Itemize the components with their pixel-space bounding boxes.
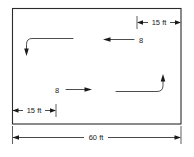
arrowhead-left-icon: [13, 135, 20, 140]
diagram-svg: 15 ft 8 8: [0, 0, 194, 157]
dimension-label-top-right: 15 ft: [152, 18, 168, 27]
dimension-overall-width: 60 ft: [13, 126, 182, 144]
arrowhead-right-icon: [175, 135, 182, 140]
dimension-label-overall: 60 ft: [89, 133, 105, 142]
dimension-label-bottom-left: 15 ft: [27, 106, 43, 115]
diagram-canvas: 15 ft 8 8: [0, 0, 194, 157]
flow-label-lower: 8: [55, 86, 59, 95]
flow-label-upper: 8: [139, 36, 143, 45]
